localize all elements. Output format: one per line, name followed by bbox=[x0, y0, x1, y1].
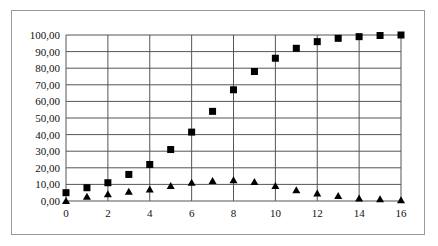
triangle-marker bbox=[104, 190, 112, 197]
square-marker bbox=[356, 33, 363, 40]
square-marker bbox=[209, 108, 216, 115]
triangle-marker bbox=[355, 195, 363, 202]
triangle-marker bbox=[209, 177, 217, 184]
square-marker bbox=[125, 171, 132, 178]
square-marker bbox=[83, 184, 90, 191]
x-tick-label: 6 bbox=[189, 207, 195, 219]
square-marker bbox=[251, 68, 258, 75]
square-marker bbox=[104, 179, 111, 186]
x-tick-label: 4 bbox=[147, 207, 153, 219]
triangle-marker bbox=[167, 182, 175, 189]
x-tick-label: 16 bbox=[396, 207, 408, 219]
y-tick-label: 30,00 bbox=[35, 145, 60, 157]
x-tick-label: 10 bbox=[270, 207, 282, 219]
triangle-marker bbox=[313, 190, 321, 197]
x-tick-label: 12 bbox=[312, 207, 323, 219]
triangle-marker bbox=[188, 179, 196, 186]
x-tick-label: 2 bbox=[105, 207, 111, 219]
x-tick-label: 8 bbox=[231, 207, 237, 219]
square-marker bbox=[398, 32, 405, 39]
square-marker bbox=[314, 38, 321, 45]
square-marker bbox=[272, 55, 279, 62]
triangle-marker bbox=[250, 178, 258, 185]
square-marker bbox=[146, 161, 153, 168]
y-tick-label: 70,00 bbox=[35, 79, 60, 91]
square-marker bbox=[167, 146, 174, 153]
triangle-marker bbox=[292, 186, 300, 193]
square-marker bbox=[377, 32, 384, 39]
y-tick-label: 0,00 bbox=[41, 195, 61, 207]
square-marker bbox=[335, 35, 342, 42]
triangle-marker bbox=[83, 193, 91, 200]
y-tick-label: 40,00 bbox=[35, 129, 60, 141]
y-tick-label: 90,00 bbox=[35, 46, 60, 58]
triangle-marker bbox=[334, 192, 342, 199]
square-marker bbox=[230, 86, 237, 93]
triangle-marker bbox=[230, 176, 238, 183]
scatter-chart: 0,0010,0020,0030,0040,0050,0060,0070,008… bbox=[0, 0, 438, 246]
square-marker bbox=[63, 189, 70, 196]
triangle-marker bbox=[125, 188, 133, 195]
y-tick-label: 80,00 bbox=[35, 62, 60, 74]
square-marker bbox=[188, 129, 195, 136]
triangle-marker bbox=[376, 195, 384, 202]
y-tick-label: 60,00 bbox=[35, 95, 60, 107]
triangle-marker bbox=[397, 196, 405, 203]
triangle-marker bbox=[146, 185, 154, 192]
y-tick-label: 50,00 bbox=[35, 112, 60, 124]
triangle-marker bbox=[271, 182, 279, 189]
y-tick-label: 20,00 bbox=[35, 162, 60, 174]
y-tick-label: 10,00 bbox=[35, 178, 60, 190]
x-tick-label: 14 bbox=[354, 207, 366, 219]
y-tick-label: 100,00 bbox=[30, 29, 61, 41]
x-tick-label: 0 bbox=[63, 207, 69, 219]
square-marker bbox=[293, 45, 300, 52]
